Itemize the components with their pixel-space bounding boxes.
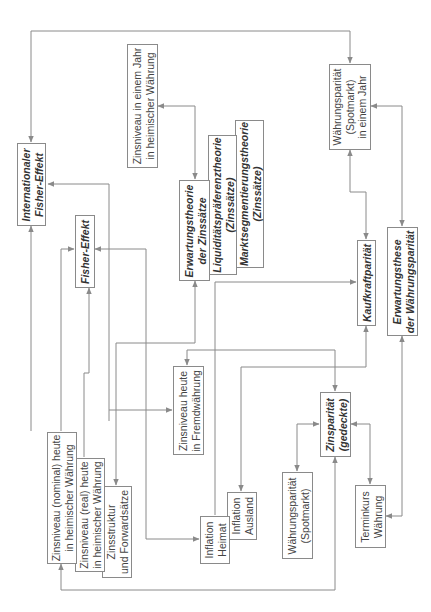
node-label-line: Ausland [242,497,255,535]
node-label-line: Währungsparität [285,477,298,554]
node-label-line: Zinsniveau (nominal) heute [50,435,63,562]
node-zinsniveau-einem-jahr-heimisch: Zinsniveau in einem Jahrin heimischer Wä… [127,44,158,168]
node-label-line: Internationaler [19,148,32,221]
node-label-line: Heimat [215,522,228,559]
node-label-line: der Währungsparität [403,230,416,333]
node-label-line: Zinsniveau heute [176,370,189,452]
node-label-line: in heimischer Währung [90,461,103,568]
node-label-line: in einem Jahr [356,68,369,145]
node-label-line: Zinsparität [323,398,336,452]
node-label-line: Terminkurs [358,491,371,542]
node-liquiditaetspraeferenztheorie: Liquiditätspräferenztheorie(Zinssätze) [208,135,237,275]
node-label-line: Währung [371,491,384,542]
node-label-line: (Spotmarkt) [344,68,357,145]
node-label-line: (Zinssätze) [223,137,236,272]
node-label-line: in heimischer Währung [62,435,75,562]
node-label-line: in Fremdwährung [189,370,202,452]
node-zinsniveau-heute-fremdwaehrung: Zinsniveau heutein Fremdwährung [173,366,204,455]
node-inflation-heimat: InflationHeimat [200,516,230,564]
node-label-line: Kaufkraftparität [360,244,373,322]
node-label-line: in heimischer Währung [143,48,156,165]
node-inflation-ausland: InflationAusland [227,492,257,540]
node-marktsegmentierungstheorie: Marktsegmentierungstheorie(Zinssätze) [235,120,264,268]
node-fisher-effekt: Fisher-Effekt [75,215,95,288]
node-label-line: Währungsparität [331,68,344,145]
node-label-line: Liquiditätspräferenztheorie [210,137,223,272]
node-terminkurs-waehrung: TerminkursWährung [355,485,386,548]
financial-parity-diagram: InternationalerFisher-Effekt Zinsniveau … [0,0,431,612]
node-zinsstruktur-forwardsaetze: Zinsstrukturund Forwardsätze [102,486,132,578]
node-label-line: Zinsstruktur [105,490,118,574]
node-label-line: (Spotmarkt) [298,477,311,554]
node-label-line: Inflation [203,522,216,559]
node-label-line: Fisher-Effekt [79,220,92,284]
node-label-line: der Zinssätze [195,184,208,277]
node-label-line: Zinsniveau in einem Jahr [130,48,143,165]
node-zinsparitaet-gedeckte: Zinsparität(gedeckte) [320,392,351,457]
node-label-line: Fisher-Effekt [32,148,45,221]
node-label-line: und Forwardsätze [117,490,130,574]
node-erwartungsthese-waehrungsparitaet: Erwartungstheseder Währungsparität [387,227,418,336]
node-label-line: Marktsegmentierungstheorie [237,122,250,266]
node-label-line: (gedeckte) [336,398,349,452]
node-internationaler-fisher-effekt: InternationalerFisher-Effekt [17,143,46,226]
node-zinsniveau-nominal-heimisch: Zinsniveau (nominal) heutein heimischer … [47,432,77,564]
node-label-line: Zinsniveau (real) heute [78,461,91,568]
node-kaufkraftparitaet: Kaufkraftparität [357,240,376,326]
node-zinsniveau-real-heimisch: Zinsniveau (real) heutein heimischer Wäh… [75,458,105,572]
node-label-line: (Zinssätze) [250,122,263,266]
node-label-line: Erwartungsthese [390,230,403,333]
node-label-line: Erwartungstheorie [182,184,195,277]
node-waehrungsparitaet-spotmarkt: Währungsparität(Spotmarkt) [282,472,313,559]
node-waehrungsparitaet-spot-einem-jahr: Währungsparität(Spotmarkt)in einem Jahr [329,64,371,150]
node-label-line: Inflation [230,497,243,535]
node-erwartungstheorie-zinssaetze: Erwartungstheorieder Zinssätze [179,180,210,281]
